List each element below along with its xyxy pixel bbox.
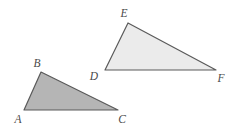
triangle-abc-shape (24, 72, 118, 110)
figure-canvas: A B C D E F (0, 0, 243, 133)
triangle-def-group: D E F (89, 7, 226, 84)
vertex-label-c: C (118, 113, 126, 125)
vertex-label-d: D (89, 70, 99, 82)
vertex-label-f: F (216, 72, 225, 84)
vertex-label-a: A (13, 113, 22, 125)
geometry-figure: A B C D E F (0, 0, 243, 133)
vertex-label-e: E (119, 7, 127, 19)
triangle-def-shape (105, 23, 216, 70)
vertex-label-b: B (33, 57, 40, 69)
